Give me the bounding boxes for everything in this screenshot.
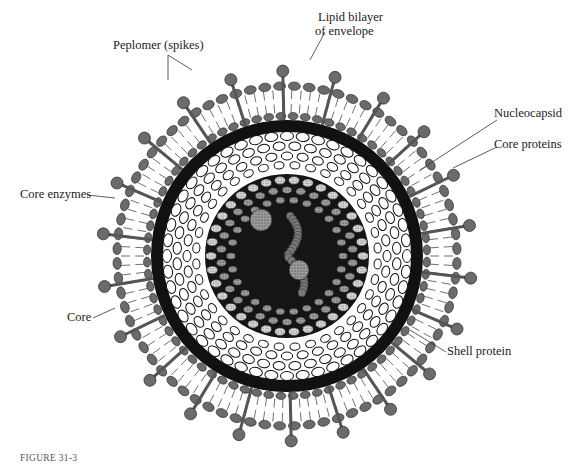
label-core-enzymes: Core enzymes [20, 187, 91, 201]
virion-diagram [0, 0, 573, 468]
label-lipid-bilayer-line1: Lipid bilayer [318, 10, 383, 24]
label-core: Core [67, 310, 91, 324]
label-peplomer: Peplomer (spikes) [113, 38, 204, 52]
label-nucleocapsid: Nucleocapsid [494, 106, 562, 120]
label-core-proteins: Core proteins [494, 137, 562, 151]
label-shell-protein: Shell protein [447, 344, 511, 358]
label-lipid-bilayer-line2: of envelope [315, 24, 374, 38]
figure-caption: FIGURE 31-3 [20, 453, 77, 463]
